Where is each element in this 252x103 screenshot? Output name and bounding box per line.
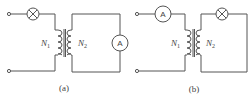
transformer-diagrams: A N1 N2 (a) A N1 N2 (b): [0, 0, 252, 103]
secondary-coil-icon: [196, 30, 200, 55]
primary-turns-label: N1: [170, 38, 180, 49]
primary-coil-icon: [58, 30, 62, 55]
caption-b: (b): [189, 84, 200, 94]
lamp-icon: [27, 8, 39, 20]
primary-turns-label: N1: [40, 38, 50, 49]
panel-a: A N1 N2 (a): [7, 8, 128, 93]
input-terminal-top-icon: [135, 12, 138, 15]
ammeter-icon: A: [112, 35, 128, 51]
secondary-turns-label: N2: [205, 38, 215, 49]
ammeter-icon: A: [155, 6, 171, 22]
secondary-turns-label: N2: [77, 38, 87, 49]
lamp-icon: [216, 8, 228, 20]
panel-b: A N1 N2 (b): [135, 6, 247, 94]
input-terminal-bottom-icon: [135, 69, 138, 72]
input-terminal-top-icon: [7, 12, 10, 15]
primary-coil-icon: [187, 30, 191, 55]
svg-text:A: A: [160, 10, 166, 19]
svg-text:A: A: [117, 39, 123, 48]
secondary-coil-icon: [67, 30, 71, 55]
input-terminal-bottom-icon: [7, 69, 10, 72]
caption-a: (a): [59, 83, 69, 93]
